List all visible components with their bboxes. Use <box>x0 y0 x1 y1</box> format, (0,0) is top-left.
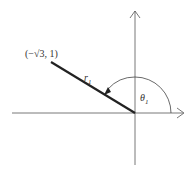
radius-subscript: 1 <box>88 78 92 86</box>
radius-segment <box>51 62 135 113</box>
radius-label: r1 <box>84 72 91 86</box>
angle-subscript: 1 <box>145 98 149 106</box>
angle-label: θ1 <box>140 92 148 106</box>
polar-diagram: (−√3, 1) r1 θ1 <box>0 0 196 179</box>
diagram-canvas <box>0 0 196 179</box>
arc-arrowhead-icon <box>104 87 111 95</box>
point-label: (−√3, 1) <box>25 48 58 59</box>
